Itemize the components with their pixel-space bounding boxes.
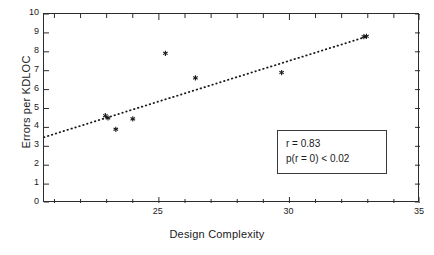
correlation-coefficient-label: r = 0.83	[286, 136, 386, 151]
data-point-marker	[163, 51, 168, 56]
y-axis-title: Errors per KDLOC	[20, 27, 32, 177]
x-axis-ticks	[54, 14, 420, 203]
x-axis-tick-labels: 253035	[0, 207, 434, 221]
x-tick-label: 25	[143, 207, 173, 216]
x-tick-label: 35	[404, 207, 434, 216]
y-tick-label: 0	[17, 197, 39, 206]
data-point-marker	[131, 116, 136, 121]
data-point-marker	[114, 127, 119, 132]
stats-annotation-box: r = 0.83 p(r = 0) < 0.02	[277, 130, 387, 174]
p-value-label: p(r = 0) < 0.02	[286, 151, 386, 166]
data-point-marker	[279, 70, 284, 75]
x-axis-title: Design Complexity	[0, 228, 434, 240]
scatter-plot-figure: 012345678910 253035 Design Complexity Er…	[0, 0, 434, 255]
regression-line	[44, 36, 368, 137]
y-tick-label: 1	[17, 178, 39, 187]
y-axis-ticks	[44, 14, 420, 203]
plot-canvas	[44, 14, 420, 203]
x-tick-label: 30	[273, 207, 303, 216]
data-point-marker	[193, 75, 198, 80]
y-tick-label: 10	[17, 8, 39, 17]
